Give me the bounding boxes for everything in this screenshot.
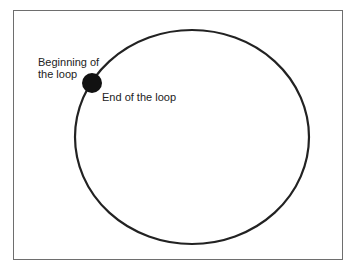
loop-diagram: [0, 0, 360, 269]
beginning-label-line2: the loop: [38, 68, 128, 80]
end-label: End of the loop: [102, 91, 176, 103]
beginning-label: Beginning of the loop: [38, 56, 128, 80]
beginning-label-line1: Beginning of: [38, 56, 128, 68]
